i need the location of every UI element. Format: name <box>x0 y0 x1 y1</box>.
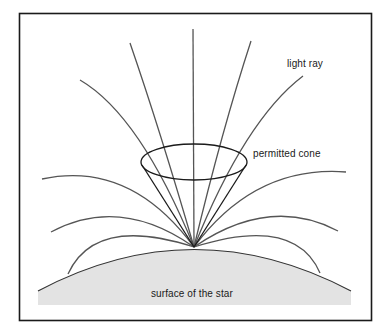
light-ray-label: light ray <box>287 58 323 69</box>
star-surface-label: surface of the star <box>151 288 233 299</box>
diagram-canvas <box>0 0 387 335</box>
light-ray-right-3 <box>194 171 346 247</box>
light-ray-vertical <box>193 29 194 247</box>
light-ray-left-2 <box>80 80 194 247</box>
permitted-cone-label: permitted cone <box>253 148 321 159</box>
light-ray-left-1 <box>130 43 194 247</box>
light-cone-diagram: light ray permitted cone surface of the … <box>0 0 387 335</box>
